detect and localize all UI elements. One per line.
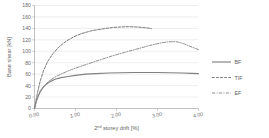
y-tick-label: 180 bbox=[22, 2, 31, 8]
pushover-curve-chart: 020406080100120140160180 0.001.002.003.0… bbox=[0, 0, 269, 138]
y-tick-label: 120 bbox=[22, 37, 31, 43]
y-tick-label: 80 bbox=[25, 60, 31, 66]
chart-figure: 020406080100120140160180 0.001.002.003.0… bbox=[0, 0, 269, 138]
y-tick-label: 0 bbox=[28, 105, 31, 111]
y-tick-label: 160 bbox=[22, 14, 31, 20]
x-axis-title: 2nd storey drift [%] bbox=[94, 125, 139, 131]
y-tick-label: 100 bbox=[22, 48, 31, 54]
legend-label-tif: TIF bbox=[235, 75, 244, 81]
y-tick-label: 140 bbox=[22, 25, 31, 31]
y-tick-label: 20 bbox=[25, 94, 31, 100]
y-axis-title: Base shear [kN] bbox=[6, 37, 12, 77]
chart-background bbox=[0, 0, 269, 138]
legend-label-ef: EF bbox=[235, 90, 243, 96]
legend-label-bf: BF bbox=[235, 59, 243, 65]
y-tick-label: 60 bbox=[25, 71, 31, 77]
y-tick-label: 40 bbox=[25, 83, 31, 89]
